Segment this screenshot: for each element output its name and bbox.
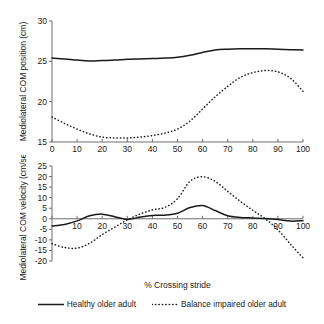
y-tick-label: 5	[42, 203, 47, 213]
x-tick-label: 100	[296, 144, 310, 154]
x-tick-label: 30	[123, 144, 133, 154]
y-tick-label: 10	[38, 193, 48, 203]
legend-swatch-solid	[38, 301, 64, 308]
x-tick-label: 60	[198, 221, 208, 231]
x-tick-label: 40	[148, 221, 158, 231]
y-axis-title: Mediolateral COM position (cm)	[18, 22, 28, 142]
x-tick-label: 20	[97, 221, 107, 231]
y-tick-label: -5	[39, 224, 47, 234]
y-tick-label: 25	[38, 56, 48, 66]
x-tick-label: 20	[97, 144, 107, 154]
x-tick-label: 0	[50, 144, 55, 154]
series-line-healthy	[52, 49, 303, 61]
x-tick-label: 80	[248, 221, 258, 231]
y-tick-label: 0	[42, 214, 47, 224]
x-tick-label: 100	[296, 221, 310, 231]
x-tick-label: 50	[173, 144, 183, 154]
x-tick-label: 80	[248, 144, 258, 154]
chart-legend: Healthy older adult Balance impaired old…	[0, 299, 324, 309]
y-tick-label: 30	[38, 16, 48, 26]
legend-entry-healthy: Healthy older adult	[38, 299, 136, 309]
series-line-balance-impaired	[52, 71, 303, 139]
x-tick-label: 40	[148, 144, 158, 154]
legend-entry-balance-impaired: Balance impaired older adult	[152, 299, 286, 309]
figure-container: 152025300102030405060708090100Mediolater…	[0, 0, 324, 324]
legend-label-balance-impaired: Balance impaired older adult	[181, 299, 286, 309]
y-tick-label: 15	[38, 137, 48, 147]
y-axis-title: Mediolateral COM velocity (cm/sec)	[18, 155, 28, 281]
x-tick-label: 50	[173, 221, 183, 231]
x-tick-label: 10	[72, 144, 82, 154]
chart-com-position: 152025300102030405060708090100Mediolater…	[0, 0, 324, 160]
y-tick-label: 20	[38, 97, 48, 107]
x-tick-label: 60	[198, 144, 208, 154]
x-tick-label: 70	[223, 144, 233, 154]
x-tick-label: 70	[223, 221, 233, 231]
y-tick-label: -10	[35, 235, 48, 245]
x-axis-title: % Crossing stride	[144, 280, 211, 290]
x-tick-label: 90	[273, 144, 283, 154]
y-tick-label: 25	[38, 161, 48, 171]
y-tick-label: -20	[35, 256, 48, 266]
y-tick-label: 20	[38, 172, 48, 182]
y-tick-label: -15	[35, 245, 48, 255]
legend-label-healthy: Healthy older adult	[67, 299, 136, 309]
chart-com-velocity: -20-15-10-505101520251020304050607080901…	[0, 155, 324, 300]
legend-swatch-dotted	[152, 301, 178, 308]
y-tick-label: 15	[38, 182, 48, 192]
